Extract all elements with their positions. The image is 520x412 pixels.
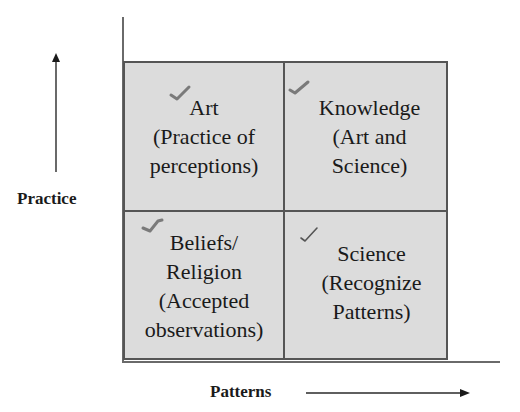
x-axis-label: Patterns (210, 382, 271, 402)
up-arrow-icon (50, 52, 64, 174)
quadrant-science-text: Science (Recognize Patterns) (309, 239, 421, 334)
right-arrow-icon (304, 387, 472, 399)
checkmark-icon (289, 79, 311, 95)
quadrant-beliefs-text: Beliefs/ Religion (Accepted observations… (145, 228, 264, 344)
checkmark-icon (170, 86, 192, 102)
checkmark-icon (142, 219, 164, 235)
quadrant-art-text: Art (Practice of perceptions) (150, 93, 259, 180)
x-axis-line (122, 361, 500, 363)
y-axis-label: Practice (17, 189, 76, 209)
quadrant-knowledge-text: Knowledge (Art and Science) (311, 93, 420, 180)
checkmark-icon (300, 227, 322, 243)
quadrant-art: Art (Practice of perceptions) (125, 63, 283, 210)
